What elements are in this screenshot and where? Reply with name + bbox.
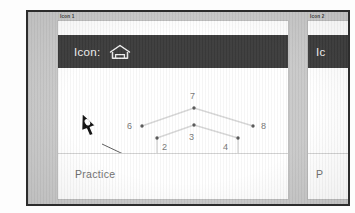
figure-dot-7[interactable] [192,106,195,109]
figure-edge-7-8 [194,108,253,126]
app-header-icon-2: Ic [308,35,350,68]
connect-the-dots-figure[interactable]: 12345678 [58,68,289,153]
practice-label-2[interactable]: P [316,168,323,180]
figure-dot-label-8: 8 [261,121,266,131]
figure-dot-3[interactable] [192,123,195,126]
tab-label-icon-1[interactable]: Icon 1 [60,14,74,19]
figure-dot-label-2: 2 [162,142,167,152]
house-icon [109,44,131,60]
tab-label-icon-2[interactable]: Icon 2 [310,14,324,19]
figure-dot-4[interactable] [236,136,239,139]
figure-point-labels: 12345678 [127,91,266,153]
screenshot-root: Icon 1 Icon: 12345678 [0,0,355,213]
footer-icon-2: P [308,154,350,200]
figure-dot-8[interactable] [251,124,254,127]
header-title-2: Ic [316,46,326,58]
figure-dot-label-6: 6 [127,121,132,131]
figure-edge-3-4 [194,125,238,138]
figure-dot-6[interactable] [140,124,143,127]
figure-dot-label-7: 7 [190,91,195,101]
figure-dot-label-4: 4 [223,142,228,152]
practice-label[interactable]: Practice [75,168,115,180]
panel-icon-2: Ic P [307,20,350,200]
app-header-icon-1: Icon: [58,35,289,68]
panel-icon-1: Icon: 12345678 [57,20,289,200]
figure-edge-6-7 [142,108,194,126]
pen-nib-cursor[interactable] [82,113,96,136]
drawing-canvas[interactable]: 12345678 [58,68,288,153]
figure-dot-2[interactable] [155,136,158,139]
figure-dot-label-3: 3 [189,132,194,142]
device-frame: Icon 1 Icon: 12345678 [26,10,350,206]
pen-lead-line [102,144,157,153]
header-title: Icon: [74,46,100,58]
footer-icon-1: Practice [58,154,288,200]
drawing-canvas-2[interactable] [308,68,350,153]
figure-edges [142,108,253,153]
